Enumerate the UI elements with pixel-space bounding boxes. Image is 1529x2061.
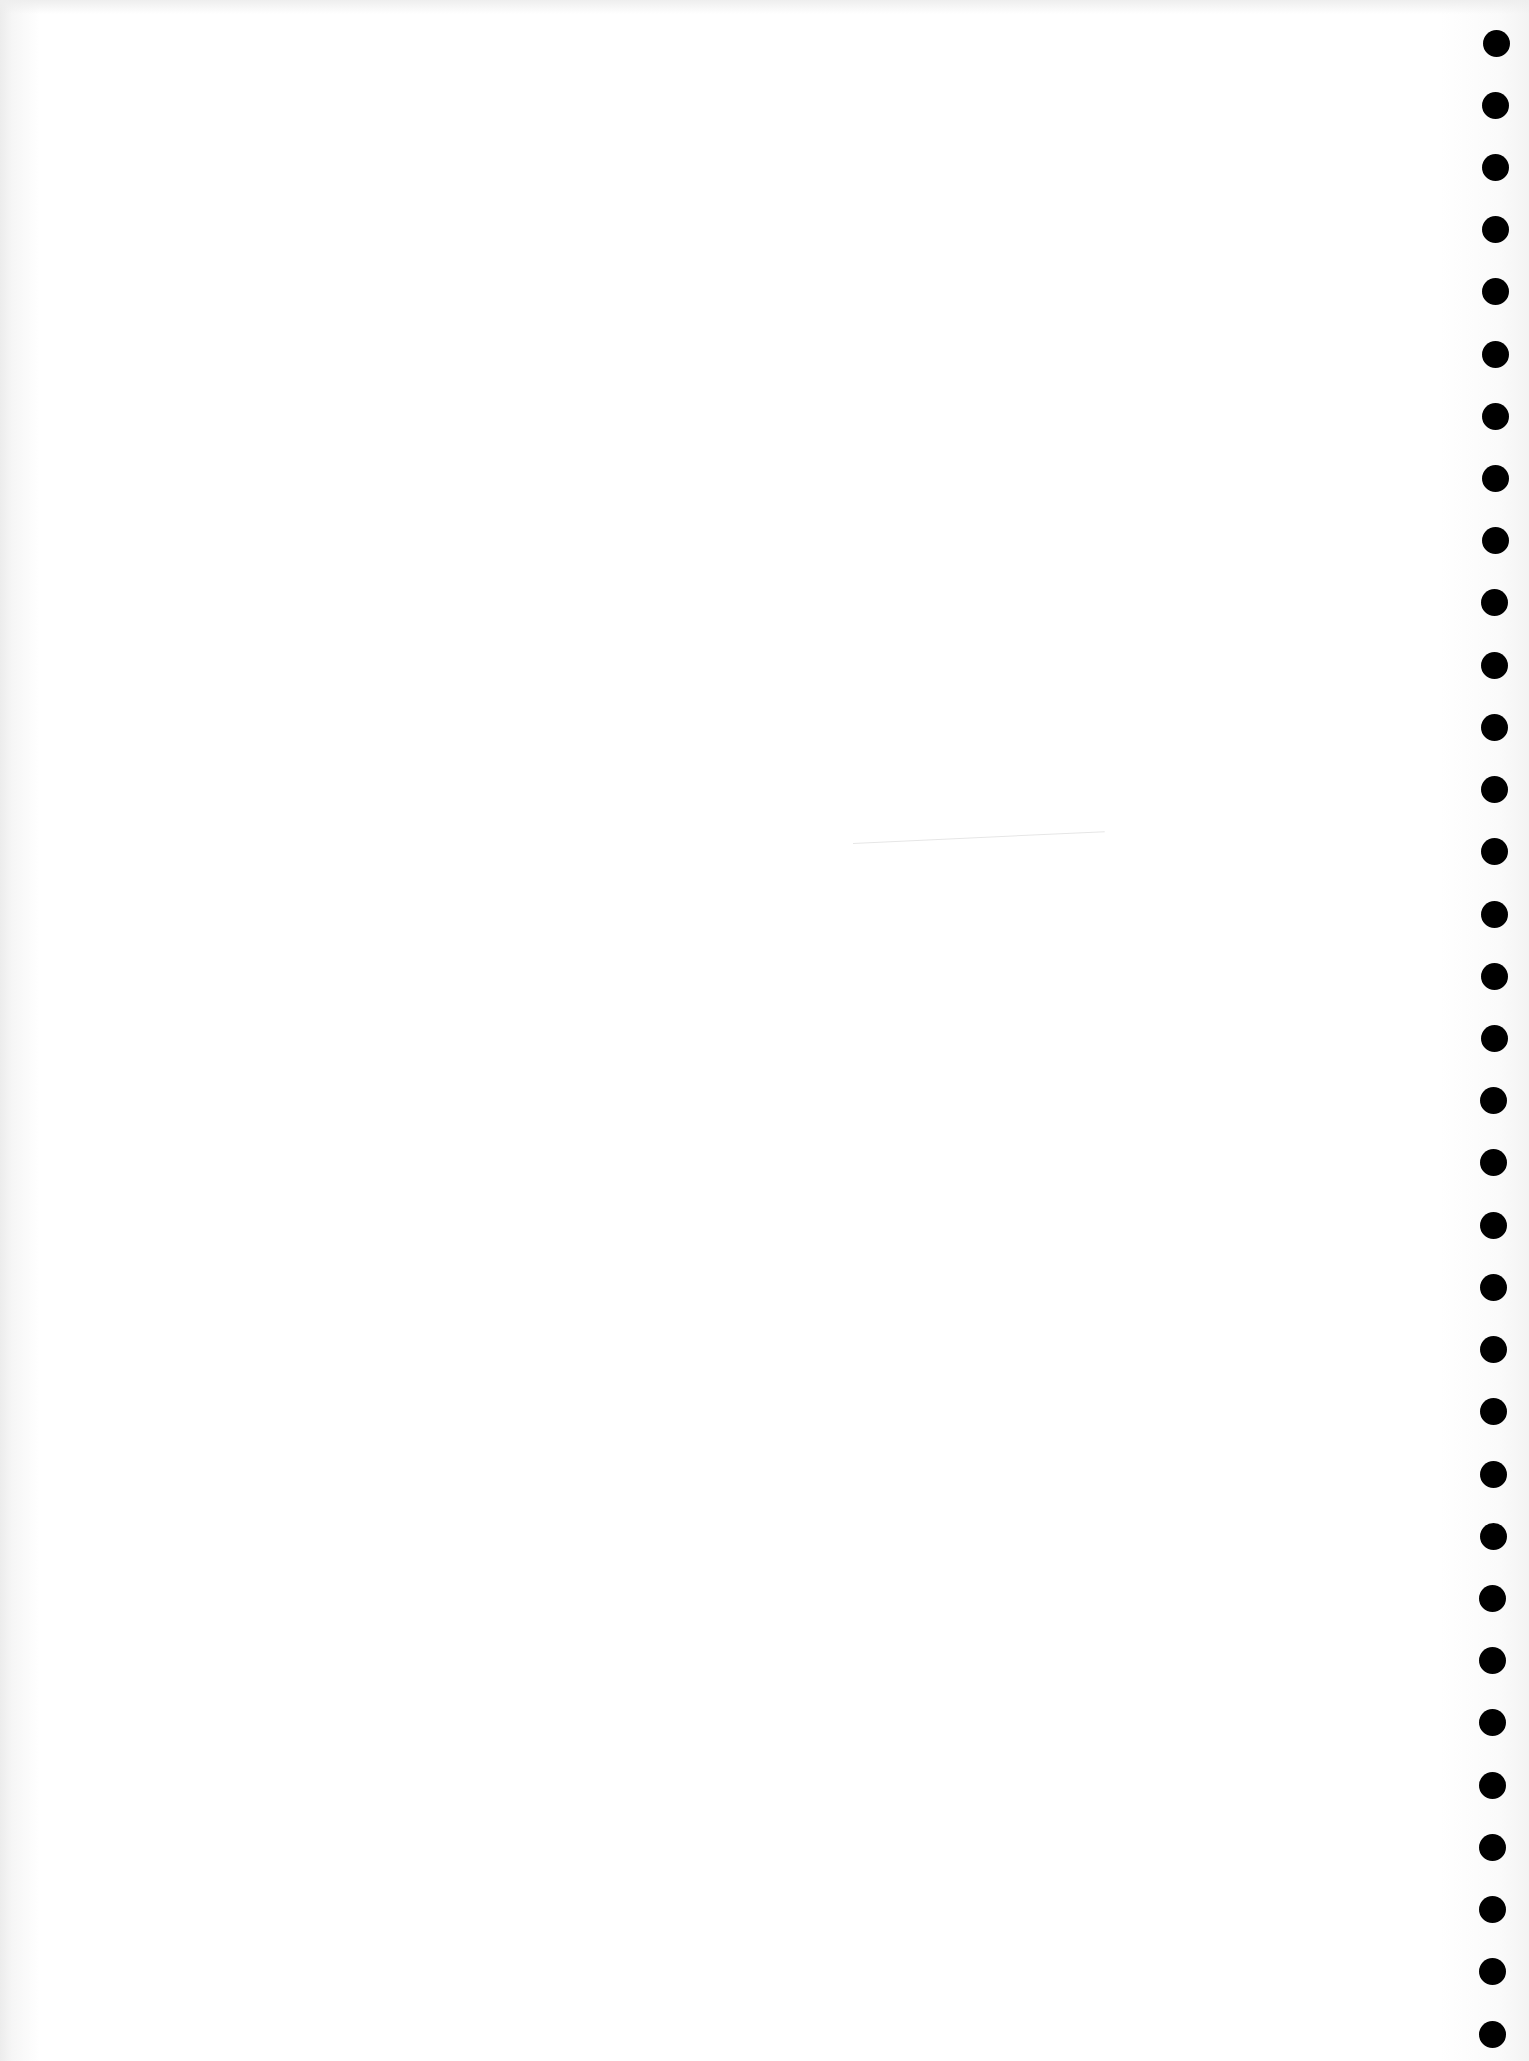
punched-hole	[1481, 714, 1508, 741]
punched-hole	[1480, 1149, 1507, 1176]
punched-hole	[1480, 1212, 1507, 1239]
punched-hole-column	[0, 0, 1529, 2061]
punched-hole	[1480, 1087, 1507, 1114]
punched-hole	[1481, 1025, 1508, 1052]
punched-hole	[1481, 901, 1508, 928]
punched-hole	[1480, 1523, 1507, 1550]
punched-hole	[1479, 1709, 1506, 1736]
punched-hole	[1481, 589, 1508, 616]
punched-hole	[1480, 1336, 1507, 1363]
punched-hole	[1482, 278, 1509, 305]
punched-hole	[1480, 1461, 1507, 1488]
punched-hole	[1481, 776, 1508, 803]
punched-hole	[1479, 1772, 1506, 1799]
punched-hole	[1481, 652, 1508, 679]
punched-hole	[1482, 403, 1509, 430]
punched-hole	[1482, 341, 1509, 368]
punched-hole	[1482, 92, 1509, 119]
punched-hole	[1482, 216, 1509, 243]
punched-hole	[1479, 1834, 1506, 1861]
punched-hole	[1482, 154, 1509, 181]
punched-hole	[1480, 1398, 1507, 1425]
punched-hole	[1482, 465, 1509, 492]
punched-hole	[1479, 1958, 1506, 1985]
punched-hole	[1482, 527, 1509, 554]
punched-hole	[1483, 30, 1510, 57]
punched-hole	[1480, 1274, 1507, 1301]
punched-hole	[1481, 963, 1508, 990]
punched-hole	[1481, 838, 1508, 865]
punched-hole	[1479, 1647, 1506, 1674]
paper-sheet	[0, 0, 1529, 2061]
punched-hole	[1479, 1585, 1506, 1612]
punched-hole	[1479, 2021, 1506, 2048]
punched-hole	[1479, 1896, 1506, 1923]
